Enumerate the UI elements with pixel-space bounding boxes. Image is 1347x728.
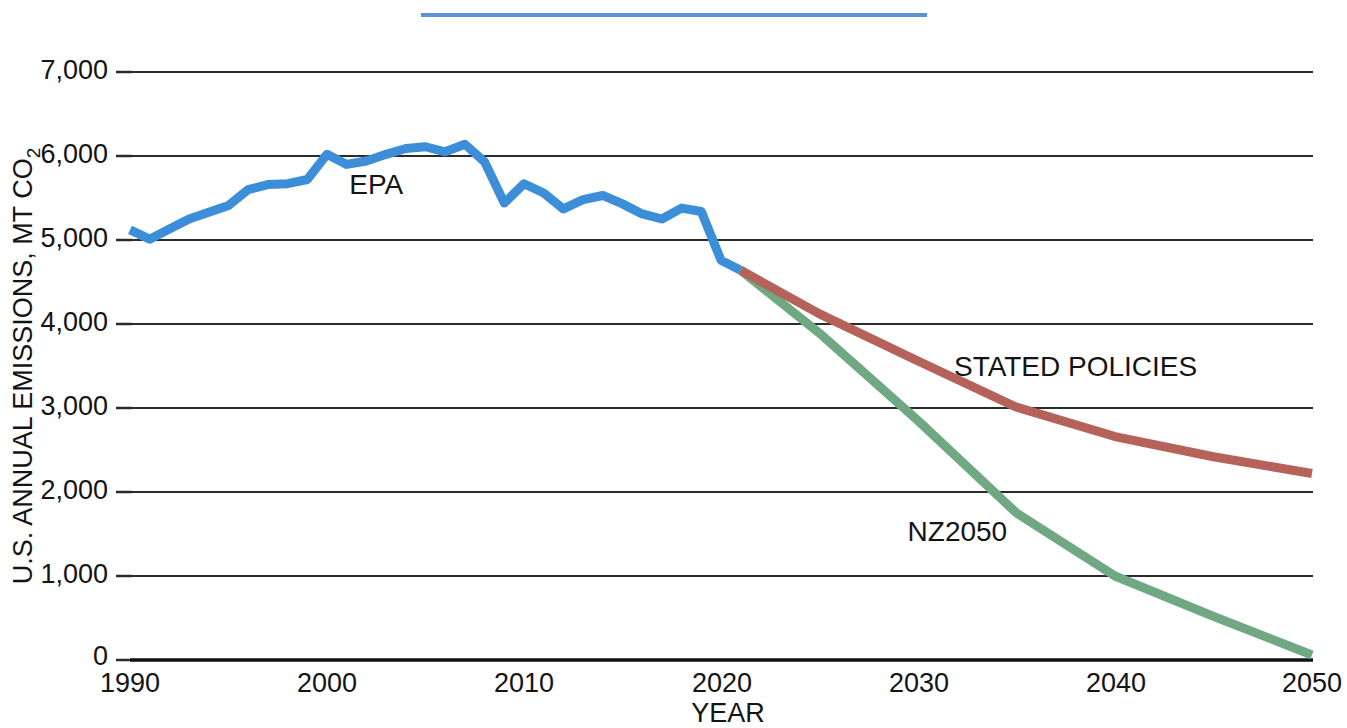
- y-tick-label-0: 0: [93, 641, 108, 671]
- series-label-nz2050: NZ2050: [908, 516, 1008, 547]
- x-tick-label-2050: 2050: [1282, 668, 1342, 698]
- x-axis-title: YEAR: [691, 698, 765, 728]
- series-label-epa: EPA: [349, 169, 403, 200]
- y-axis-title: U.S. ANNUAL EMISSIONS, MT CO2: [8, 148, 44, 585]
- y-tick-label-3000: 3,000: [40, 391, 108, 421]
- svg-text:U.S. ANNUAL EMISSIONS, MT CO2: U.S. ANNUAL EMISSIONS, MT CO2: [8, 148, 44, 585]
- y-tick-label-1000: 1,000: [40, 559, 108, 589]
- gridlines: [130, 72, 1313, 576]
- y-tick-label-5000: 5,000: [40, 223, 108, 253]
- y-tick-label-2000: 2,000: [40, 475, 108, 505]
- y-tickmarks: [116, 72, 132, 660]
- x-tick-label-2010: 2010: [494, 668, 554, 698]
- x-tick-label-2030: 2030: [889, 668, 949, 698]
- chart-container: 7,000 6,000 5,000 4,000 3,000 2,000 1,00…: [0, 0, 1347, 728]
- x-tick-label-2040: 2040: [1086, 668, 1146, 698]
- x-tick-label-2000: 2000: [297, 668, 357, 698]
- y-tick-label-6000: 6,000: [40, 139, 108, 169]
- series-label-stated-policies: STATED POLICIES: [954, 351, 1197, 382]
- y-axis-title-subscript: 2: [23, 148, 44, 159]
- y-tick-label-4000: 4,000: [40, 307, 108, 337]
- x-tick-label-2020: 2020: [692, 668, 752, 698]
- series-line-epa: [130, 144, 741, 270]
- y-axis-title-main: U.S. ANNUAL EMISSIONS, MT CO: [8, 158, 38, 584]
- y-tick-label-7000: 7,000: [40, 55, 108, 85]
- emissions-line-chart: 7,000 6,000 5,000 4,000 3,000 2,000 1,00…: [0, 0, 1347, 728]
- x-tick-label-1990: 1990: [100, 668, 160, 698]
